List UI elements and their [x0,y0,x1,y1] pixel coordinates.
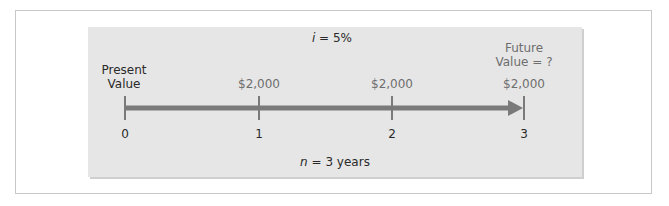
present-value-line2: Value [108,78,141,90]
tick-label-2: 2 [388,128,396,140]
payment-1: $2,000 [238,78,280,90]
tick-label-3: 3 [520,128,528,140]
present-value-line1: Present [101,64,146,76]
arrow-head-icon [508,100,523,116]
tick-label-0: 0 [121,128,129,140]
payment-2: $2,000 [371,78,413,90]
payment-3: $2,000 [503,78,545,90]
tick-label-1: 1 [255,128,263,140]
period-label: n = 3 years [300,156,370,168]
future-value-line2: Value = ? [495,56,552,68]
future-value-line1: Future [505,42,543,54]
interest-rate-label: i = 5% [312,32,352,44]
